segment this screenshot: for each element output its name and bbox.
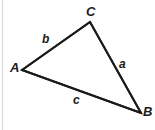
side-label-c: c [73,94,80,106]
vertex-label-a: A [10,61,19,74]
side-label-a: a [119,58,126,70]
vertex-label-b: B [143,105,152,118]
side-label-b: b [42,33,49,45]
triangle-shape [0,0,155,130]
side-b-line [22,22,90,70]
side-c-line [22,70,141,113]
vertex-label-c: C [86,5,95,18]
diagram-canvas: A C B b a c [0,0,155,130]
side-a-line [90,22,141,113]
